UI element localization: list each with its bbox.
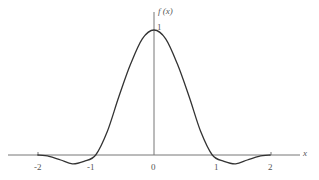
x-tick-label-neg2: -2 [34,163,42,172]
x-tick-label-2: 2 [268,163,273,172]
x-axis-label: x [303,149,307,158]
x-tick-label-1: 1 [214,163,219,172]
x-tick-label-neg1: -1 [87,163,95,172]
y-axis-label: f (x) [158,7,173,16]
x-tick-label-0: 0 [151,163,156,172]
y-tick-label-1: 1 [157,23,162,32]
